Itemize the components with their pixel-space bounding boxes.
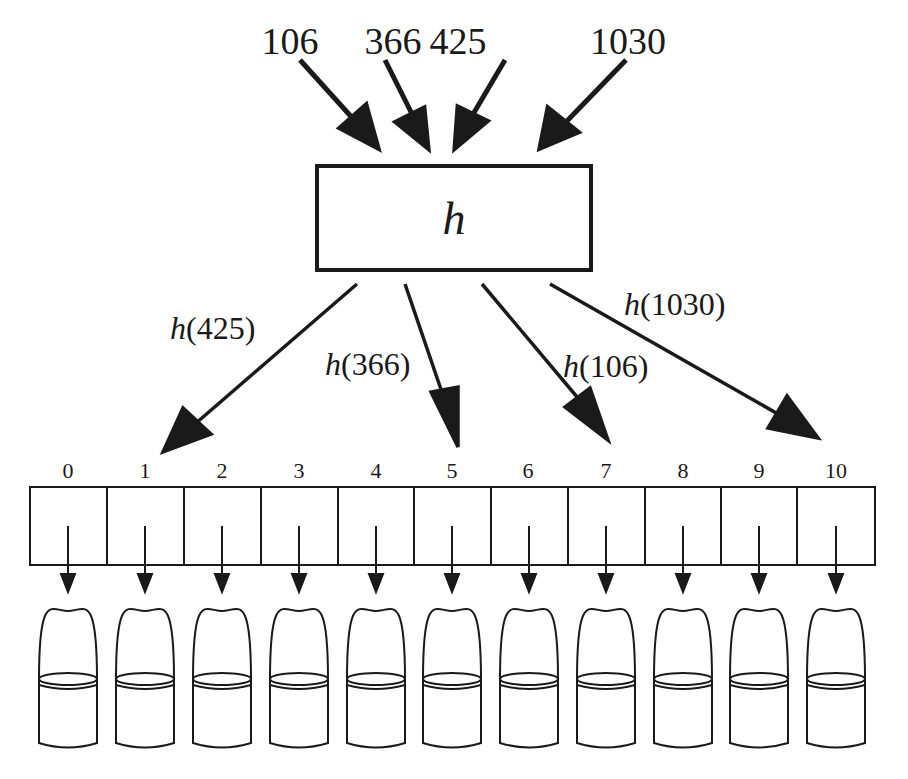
slot-pointer-4 [369,526,383,592]
diagram-graphics [0,0,908,779]
buckets [39,609,865,748]
slot-pointer-arrows [61,526,843,592]
slot-pointer-9 [752,526,766,592]
bucket-icon [116,609,174,748]
slot-pointer-0 [61,526,75,592]
output-arrow-to-slot-5 [405,284,458,447]
output-arrows [163,284,818,452]
bucket-icon [807,609,865,748]
bucket-icon [270,609,328,748]
bucket-icon [577,609,635,748]
slot-pointer-1 [138,526,152,592]
slot-pointer-10 [829,526,843,592]
bucket-icon [500,609,558,748]
input-arrows [300,60,626,148]
input-arrow-366 [385,60,428,148]
slot-pointer-6 [522,526,536,592]
bucket-icon [423,609,481,748]
bucket-icon [654,609,712,748]
input-arrow-1030 [540,60,626,148]
slot-pointer-3 [292,526,306,592]
bucket-icon [730,609,788,748]
bucket-icon [193,609,251,748]
bucket-icon [39,609,97,748]
slot-pointer-2 [215,526,229,592]
input-arrow-106 [300,60,378,148]
bucket-icon [347,609,405,748]
input-arrow-425 [455,60,505,148]
output-arrow-to-slot-1 [163,284,357,452]
slot-pointer-7 [599,526,613,592]
slot-pointer-8 [676,526,690,592]
slot-pointer-5 [445,526,459,592]
